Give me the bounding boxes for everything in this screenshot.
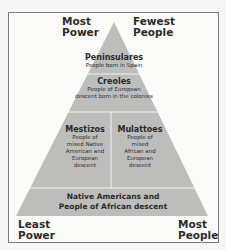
tier-name: Creoles [64, 77, 164, 86]
tier-native-african: Native Americans and People of African d… [40, 192, 186, 212]
label-line: People [133, 27, 175, 38]
tier-description: People of [115, 134, 165, 141]
tier-description: descent born in the colonies [64, 93, 164, 100]
tier-description: American and [60, 148, 110, 155]
tier-creoles: Creoles People of European descent born … [64, 77, 164, 100]
label-line: Power [62, 27, 99, 38]
tier-description: mixed [115, 141, 165, 148]
tier-description: People born in Spain [74, 62, 154, 69]
tier-description: mixed Native [60, 141, 110, 148]
tier-description: Native Americans and [40, 192, 186, 202]
tier-description: descent [115, 162, 165, 169]
label-line: Power [18, 230, 55, 241]
label-fewest-people: Fewest People [133, 16, 175, 38]
tier-peninsulares: Peninsulares People born in Spain [74, 53, 154, 69]
tier-description: European [115, 155, 165, 162]
tier-description: European [60, 155, 110, 162]
label-line: People [178, 230, 218, 241]
tier-name: Peninsulares [74, 53, 154, 62]
label-most-people: Most People [178, 219, 218, 241]
label-most-power: Most Power [62, 16, 99, 38]
tier-name: Mestizos [60, 125, 110, 134]
tier-description: descent [60, 162, 110, 169]
tier-description: People of African descent [40, 202, 186, 212]
label-least-power: Least Power [18, 219, 55, 241]
tier-name: Mulattoes [115, 125, 165, 134]
tier-mestizos: Mestizos People of mixed Native American… [60, 125, 110, 169]
pyramid-shape [0, 0, 226, 250]
tier-description: People of European [64, 86, 164, 93]
tier-description: African and [115, 148, 165, 155]
tier-mulattoes: Mulattoes People of mixed African and Eu… [115, 125, 165, 169]
tier-description: People of [60, 134, 110, 141]
